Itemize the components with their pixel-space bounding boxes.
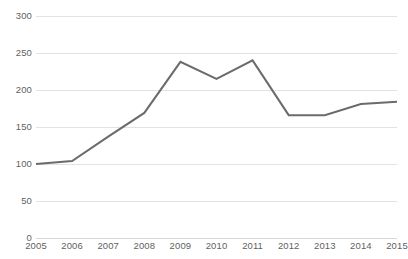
y-axis-labels: 050100150200250300 (0, 16, 32, 238)
x-tick-label-2005: 2005 (25, 240, 47, 252)
series-line-index (36, 60, 397, 164)
x-tick-label-2009: 2009 (170, 240, 192, 252)
x-tick-label-2007: 2007 (97, 240, 119, 252)
x-tick-label-2010: 2010 (206, 240, 228, 252)
x-tick-label-2014: 2014 (350, 240, 372, 252)
y-tick-label-100: 100 (2, 159, 32, 169)
y-tick-label-200: 200 (2, 85, 32, 95)
x-tick-label-2008: 2008 (134, 240, 156, 252)
y-tick-label-50: 50 (2, 196, 32, 206)
gridline-0 (36, 238, 397, 239)
y-tick-label-150: 150 (2, 122, 32, 132)
x-tick-label-2006: 2006 (61, 240, 83, 252)
x-tick-label-2012: 2012 (278, 240, 300, 252)
y-tick-label-300: 300 (2, 11, 32, 21)
series-line-layer (36, 16, 397, 238)
plot-area (36, 16, 397, 238)
x-tick-label-2015: 2015 (386, 240, 408, 252)
y-tick-label-250: 250 (2, 48, 32, 58)
chart-title (0, 0, 407, 10)
x-tick-label-2011: 2011 (242, 240, 263, 252)
x-axis-labels: 2005200620072008200920102011201220132014… (36, 240, 397, 256)
x-tick-label-2013: 2013 (314, 240, 336, 252)
